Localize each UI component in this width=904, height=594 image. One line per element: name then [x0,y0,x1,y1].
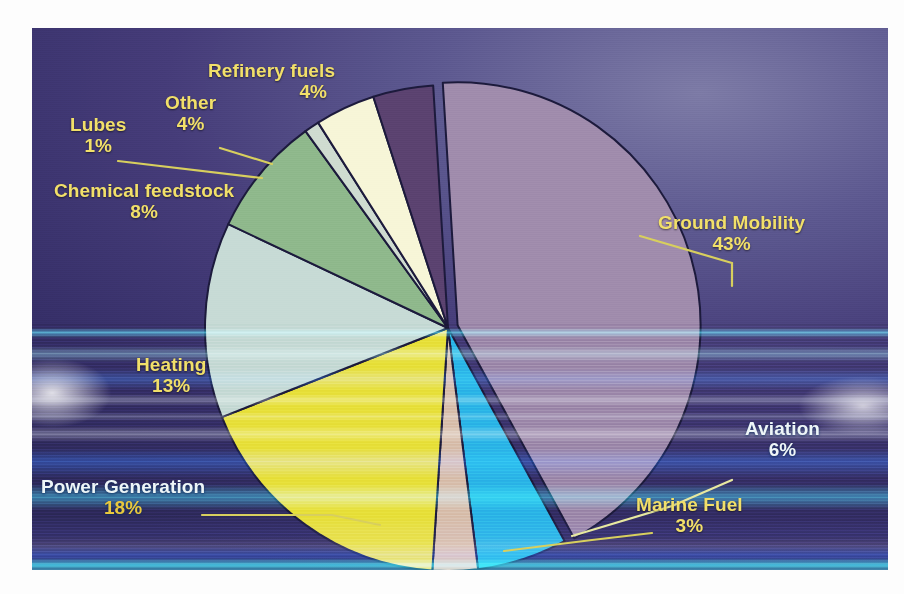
label-chemical-feedstock: Chemical feedstock 8% [54,180,234,223]
slide-photo: Ground Mobility 43%Aviation 6%Marine Fue… [32,28,888,570]
label-heating-pct: 13% [136,375,206,396]
label-lubes: Lubes 1% [70,114,126,157]
label-lubes-title: Lubes [70,114,126,135]
label-other-pct: 4% [165,113,216,134]
label-refinery-fuels: Refinery fuels 4% [208,60,335,103]
label-ground-mobility-pct: 43% [658,233,805,254]
label-chemical-feedstock-title: Chemical feedstock [54,180,234,201]
label-refinery-fuels-pct: 4% [208,81,335,102]
label-ground-mobility: Ground Mobility 43% [658,212,805,255]
label-heating: Heating 13% [136,354,206,397]
label-refinery-fuels-title: Refinery fuels [208,60,335,81]
label-ground-mobility-title: Ground Mobility [658,212,805,233]
label-power-generation-pct: 18% [41,497,205,518]
label-marine-fuel-pct: 3% [636,515,743,536]
label-power-generation-title: Power Generation [41,476,205,497]
label-heating-title: Heating [136,354,206,375]
label-marine-fuel: Marine Fuel 3% [636,494,743,537]
label-aviation-title: Aviation [745,418,820,439]
label-marine-fuel-title: Marine Fuel [636,494,743,515]
label-aviation: Aviation 6% [745,418,820,461]
label-lubes-pct: 1% [70,135,126,156]
label-aviation-pct: 6% [745,439,820,460]
page-canvas: Ground Mobility 43%Aviation 6%Marine Fue… [0,0,904,594]
pie-slice-group: Ground Mobility 43%Aviation 6%Marine Fue… [205,82,701,570]
label-chemical-feedstock-pct: 8% [54,201,234,222]
label-power-generation: Power Generation 18% [41,476,205,519]
